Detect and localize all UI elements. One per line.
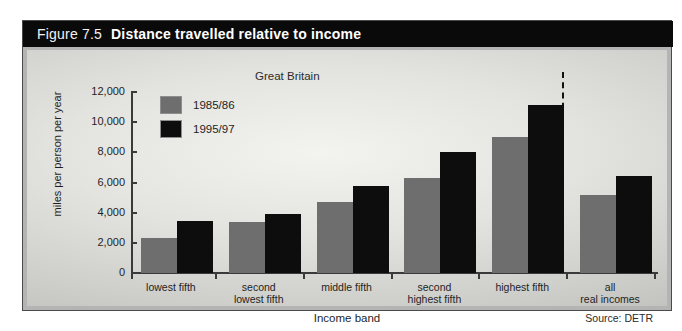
- x-tick-4: [566, 274, 568, 279]
- figure-number: Figure 7.5: [37, 26, 102, 42]
- figure-container: Figure 7.5 Distance travelled relative t…: [22, 20, 672, 311]
- x-tick-1: [303, 274, 305, 279]
- y-tick-label-12000: 12,000: [65, 85, 125, 97]
- bar-highest-fifth-1985-86: [492, 137, 528, 273]
- bar-all-real-incomes-1985-86: [580, 195, 616, 273]
- bar-second-lowest-fifth-1995-97: [265, 214, 301, 273]
- bar-lowest-fifth-1995-97: [177, 221, 213, 273]
- y-tick-label-4000: 4,000: [65, 206, 125, 218]
- bar-middle-fifth-1995-97: [353, 186, 389, 273]
- bar-all-real-incomes-1995-97: [616, 176, 652, 273]
- chart-panel: Great Britain 1985/86 1995/97 miles per …: [27, 50, 667, 306]
- plot-area: [131, 92, 658, 273]
- y-tick-label-0: 0: [65, 266, 125, 278]
- figure-title-bar: Figure 7.5 Distance travelled relative t…: [23, 21, 673, 47]
- bar-lowest-fifth-1985-86: [141, 238, 177, 273]
- x-tick-0: [215, 274, 217, 279]
- x-category-label-middle-fifth: middle fifth: [303, 281, 391, 293]
- source-note: Source: DETR: [585, 312, 653, 324]
- x-tick-5: [654, 274, 656, 279]
- chart-subtitle: Great Britain: [255, 70, 320, 82]
- x-tick-3: [478, 274, 480, 279]
- x-tick-origin: [131, 274, 133, 279]
- bar-second-highest-fifth-1985-86: [404, 178, 440, 273]
- x-axis-title: Income band: [27, 312, 667, 324]
- x-tick-2: [391, 274, 393, 279]
- x-category-label-second-highest-fifth: secondhighest fifth: [391, 281, 479, 305]
- y-tick-label-8000: 8,000: [65, 145, 125, 157]
- bar-highest-fifth-1995-97: [528, 105, 564, 273]
- y-axis-title: miles per person per year: [51, 69, 63, 239]
- x-category-label-lowest-fifth: lowest fifth: [127, 281, 215, 293]
- x-category-label-second-lowest-fifth: secondlowest fifth: [215, 281, 303, 305]
- y-tick-label-10000: 10,000: [65, 115, 125, 127]
- figure-title: Distance travelled relative to income: [111, 26, 361, 42]
- bar-second-lowest-fifth-1985-86: [229, 222, 265, 273]
- x-category-label-highest-fifth: highest fifth: [478, 281, 566, 293]
- x-category-label-all-real-incomes: allreal incomes: [566, 281, 654, 305]
- y-tick-label-2000: 2,000: [65, 236, 125, 248]
- y-tick-label-6000: 6,000: [65, 176, 125, 188]
- bar-middle-fifth-1985-86: [317, 202, 353, 273]
- bar-second-highest-fifth-1995-97: [440, 152, 476, 273]
